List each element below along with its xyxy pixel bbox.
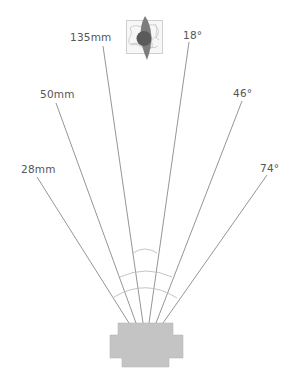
label-28mm: 28mm — [21, 164, 56, 175]
camera-body-icon — [110, 323, 183, 367]
label-46deg: 46° — [233, 88, 252, 99]
label-18deg: 18° — [183, 30, 202, 41]
ray-46deg-right — [156, 101, 242, 323]
view-angle-rays — [37, 42, 267, 323]
arc-50mm — [120, 271, 172, 277]
ray-28mm-left — [37, 177, 129, 323]
ray-18deg-right — [149, 42, 189, 323]
arc-135mm — [133, 249, 157, 253]
view-angle-arcs — [114, 249, 177, 298]
label-135mm: 135mm — [70, 32, 112, 43]
subject-figure-icon — [127, 16, 163, 60]
ray-135mm-left — [103, 46, 143, 323]
ray-74deg-right — [163, 175, 267, 323]
label-74deg: 74° — [260, 163, 279, 174]
label-50mm: 50mm — [40, 89, 75, 100]
ray-50mm-left — [56, 103, 136, 323]
angle-of-view-diagram: 135mm 18° 50mm 46° 28mm 74° — [0, 0, 293, 380]
